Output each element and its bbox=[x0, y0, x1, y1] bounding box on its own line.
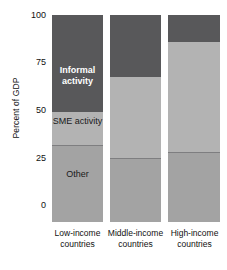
x-label-low-income-line1: Low-income bbox=[45, 228, 110, 239]
segment-label-other: Other bbox=[52, 169, 103, 180]
segment-label-informal: Informal activity bbox=[52, 65, 103, 87]
bar-segment-middle-income-informal[interactable] bbox=[110, 15, 161, 77]
segment-label-informal-line1: Informal bbox=[60, 65, 96, 75]
x-label-middle-income: Middle-income countries bbox=[103, 228, 168, 250]
segment-label-sme: SME activity bbox=[52, 116, 103, 127]
x-label-low-income: Low-income countries bbox=[45, 228, 110, 250]
x-label-middle-income-line1: Middle-income bbox=[103, 228, 168, 239]
bar-segment-middle-income-sme[interactable] bbox=[110, 77, 161, 158]
segment-divider-middle-income bbox=[110, 158, 161, 159]
x-label-high-income-line1: High-income bbox=[162, 228, 227, 239]
bar-stack-high-income bbox=[168, 15, 220, 222]
bar-column-middle-income[interactable] bbox=[110, 15, 161, 222]
stacked-bar-chart: Percent of GDP 100 75 50 25 0 Informal a… bbox=[0, 0, 227, 270]
bar-segment-low-income-informal[interactable]: Informal activity bbox=[52, 15, 103, 112]
bar-segment-high-income-informal[interactable] bbox=[168, 15, 220, 42]
y-tick-100: 100 bbox=[20, 11, 46, 20]
y-axis-ticks: 100 75 50 25 0 bbox=[18, 0, 46, 270]
plot-area: Informal activity SME activity Other bbox=[52, 15, 220, 222]
x-label-low-income-line2: countries bbox=[45, 239, 110, 250]
x-axis-labels: Low-income countries Middle-income count… bbox=[52, 228, 220, 268]
segment-label-sme-line2: activity bbox=[75, 116, 103, 126]
bar-column-low-income[interactable]: Informal activity SME activity Other bbox=[52, 15, 103, 222]
segment-label-other-line1: Other bbox=[66, 169, 89, 179]
bar-segment-high-income-sme[interactable] bbox=[168, 42, 220, 152]
bar-segment-high-income-other[interactable] bbox=[168, 152, 220, 222]
bar-segment-low-income-sme[interactable]: SME activity bbox=[52, 112, 103, 145]
y-tick-0: 0 bbox=[20, 201, 46, 210]
y-tick-50: 50 bbox=[20, 106, 46, 115]
y-tick-25: 25 bbox=[20, 154, 46, 163]
segment-label-informal-line2: activity bbox=[62, 76, 93, 86]
segment-label-sme-line1: SME bbox=[53, 116, 73, 126]
segment-divider-low-income bbox=[52, 145, 103, 146]
bar-stack-low-income: Informal activity SME activity Other bbox=[52, 15, 103, 222]
x-label-high-income: High-income countries bbox=[162, 228, 227, 250]
x-label-middle-income-line2: countries bbox=[103, 239, 168, 250]
bar-segment-low-income-other[interactable]: Other bbox=[52, 145, 103, 222]
bar-stack-middle-income bbox=[110, 15, 161, 222]
segment-divider-high-income bbox=[168, 152, 220, 153]
x-label-high-income-line2: countries bbox=[162, 239, 227, 250]
bar-segment-middle-income-other[interactable] bbox=[110, 158, 161, 222]
y-tick-75: 75 bbox=[20, 58, 46, 67]
bar-column-high-income[interactable] bbox=[168, 15, 220, 222]
